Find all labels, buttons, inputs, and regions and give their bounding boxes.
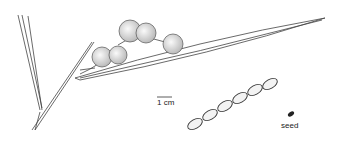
botanical-illustration: 1 cm seed: [0, 0, 345, 143]
seed-label: seed: [281, 121, 298, 130]
narrow-leaf: [18, 15, 40, 110]
scale-label: 1 cm: [157, 98, 174, 107]
stem: [32, 42, 92, 130]
seed-pod: [186, 76, 279, 132]
seed: [287, 110, 295, 117]
